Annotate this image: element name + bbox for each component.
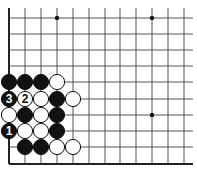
white-stone xyxy=(49,139,64,154)
black-stone-icon xyxy=(33,74,48,89)
black-stone-icon xyxy=(49,123,64,138)
black-stone-move-3: 3 xyxy=(1,91,16,106)
black-stone-move-1: 1 xyxy=(1,123,16,138)
white-stone-icon xyxy=(49,74,64,89)
black-stone xyxy=(49,107,64,122)
black-stone-icon xyxy=(17,107,32,122)
white-stone xyxy=(33,91,48,106)
white-stone-icon xyxy=(33,107,48,122)
black-stone-icon xyxy=(17,74,32,89)
white-stone xyxy=(1,107,16,122)
black-stone xyxy=(1,74,16,89)
black-stone xyxy=(49,91,64,106)
black-stone xyxy=(17,139,32,154)
black-stone-icon xyxy=(1,74,16,89)
white-stone-icon xyxy=(33,123,48,138)
go-board: 321 xyxy=(0,0,197,174)
white-stone xyxy=(65,91,80,106)
white-stone xyxy=(33,123,48,138)
white-stone-icon xyxy=(1,107,16,122)
move-number-label: 3 xyxy=(6,92,13,106)
star-point-icon xyxy=(55,16,59,20)
black-stone-icon xyxy=(49,107,64,122)
white-stone-icon xyxy=(65,139,80,154)
black-stone-icon xyxy=(49,91,64,106)
white-stone-icon xyxy=(17,123,32,138)
white-stone-icon xyxy=(33,91,48,106)
star-point-icon xyxy=(150,113,154,117)
black-stone xyxy=(17,107,32,122)
black-stone-icon xyxy=(33,139,48,154)
black-stone-icon xyxy=(17,139,32,154)
black-stone xyxy=(33,74,48,89)
white-stone xyxy=(17,123,32,138)
white-stone xyxy=(33,107,48,122)
white-stone-move-2: 2 xyxy=(17,91,32,106)
move-number-label: 2 xyxy=(22,92,29,106)
white-stone xyxy=(49,74,64,89)
white-stone-icon xyxy=(49,139,64,154)
white-stone-icon xyxy=(65,91,80,106)
move-number-label: 1 xyxy=(6,124,13,138)
black-stone xyxy=(17,74,32,89)
white-stone xyxy=(65,139,80,154)
black-stone xyxy=(33,139,48,154)
star-point-icon xyxy=(150,16,154,20)
black-stone xyxy=(49,123,64,138)
